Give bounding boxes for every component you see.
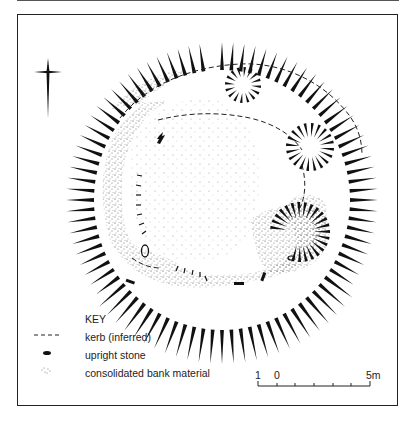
scale-bar [0, 0, 416, 423]
scale-label-5m: 5m [366, 369, 381, 381]
scale-label-1: 1 [255, 369, 261, 381]
scale-label-0: 0 [274, 369, 280, 381]
